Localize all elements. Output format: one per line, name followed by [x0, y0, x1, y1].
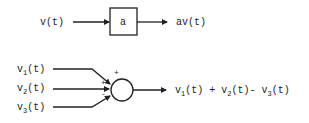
summer-input-2-label: v2(t): [17, 83, 45, 96]
block-diagram: v(t) a av(t) v1(t) v2(t) v3(t) + + - v1(…: [0, 0, 309, 123]
gain-label: a: [120, 17, 126, 28]
summer-output-label: v1(t)+v2(t)-v3(t): [175, 85, 290, 98]
gain-output-label: av(t): [176, 17, 206, 28]
gain-input-label: v(t): [40, 17, 64, 28]
summer-sign-2: +: [101, 78, 106, 87]
summer-sign-1: +: [114, 68, 119, 77]
summing-junction: [111, 79, 133, 101]
summer-input-1-label: v1(t): [17, 64, 45, 77]
summer-input-3-label: v3(t): [17, 102, 45, 115]
gain-block-diagram: v(t) a av(t): [40, 8, 206, 35]
summer-diagram: v1(t) v2(t) v3(t) + + - v1(t)+v2(t)-v3(t…: [17, 64, 290, 115]
summer-sign-3: -: [101, 89, 106, 98]
